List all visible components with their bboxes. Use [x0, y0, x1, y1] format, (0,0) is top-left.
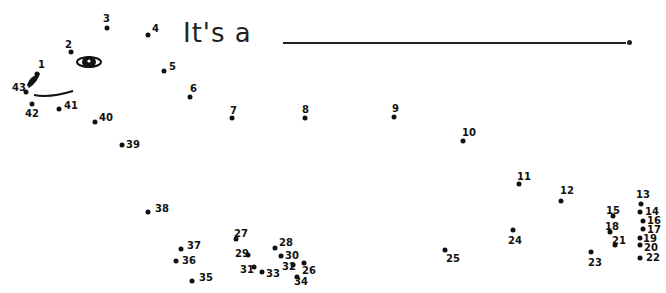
dot-label-25: 25 [446, 254, 460, 264]
dot-label-38: 38 [155, 204, 169, 214]
dot-label-40: 40 [99, 113, 113, 123]
dot-label-29: 29 [235, 249, 249, 259]
dot-4 [146, 33, 151, 38]
dot-38 [146, 210, 151, 215]
dot-label-7: 7 [230, 106, 237, 116]
dot-7 [230, 116, 235, 121]
dot-9 [392, 115, 397, 120]
dot-label-3: 3 [103, 14, 110, 24]
dot-label-8: 8 [302, 105, 309, 115]
dot-label-22: 22 [646, 253, 660, 263]
dot-label-24: 24 [508, 236, 522, 246]
dot-13 [639, 202, 644, 207]
dot-28 [273, 246, 278, 251]
dot-36 [174, 259, 179, 264]
face-drawing [0, 0, 666, 293]
dot-12 [559, 199, 564, 204]
dot-42 [30, 102, 35, 107]
dot-17 [641, 227, 646, 232]
dot-6 [188, 95, 193, 100]
dot-label-10: 10 [462, 128, 476, 138]
connect-the-dots-worksheet: It's a 123456789101112131415161718192021… [0, 0, 666, 293]
dot-label-36: 36 [182, 256, 196, 266]
dot-label-37: 37 [187, 241, 201, 251]
dot-label-5: 5 [169, 62, 176, 72]
dot-14 [638, 210, 643, 215]
dot-label-39: 39 [126, 140, 140, 150]
dot-25 [443, 248, 448, 253]
dot-label-35: 35 [199, 273, 213, 283]
dot-30 [279, 254, 284, 259]
dot-label-43: 43 [12, 83, 26, 93]
dot-label-13: 13 [636, 190, 650, 200]
dot-19 [638, 236, 643, 241]
dot-label-26: 26 [302, 266, 316, 276]
dot-label-1: 1 [38, 60, 45, 70]
mouth-curve [34, 91, 73, 96]
dot-label-21: 21 [612, 236, 626, 246]
dot-label-32: 32 [282, 262, 296, 272]
dot-label-34: 34 [294, 277, 308, 287]
dot-20 [638, 243, 643, 248]
dot-label-31: 31 [240, 265, 254, 275]
eye-icon [77, 56, 101, 68]
dot-23 [589, 250, 594, 255]
dot-label-4: 4 [152, 24, 159, 34]
dot-label-33: 33 [266, 269, 280, 279]
dot-label-28: 28 [279, 238, 293, 248]
dot-22 [638, 256, 643, 261]
dot-41 [57, 107, 62, 112]
dot-label-15: 15 [606, 206, 620, 216]
dot-label-2: 2 [65, 40, 72, 50]
dot-8 [303, 116, 308, 121]
dot-40 [93, 120, 98, 125]
dot-35 [190, 279, 195, 284]
dot-label-18: 18 [605, 222, 619, 232]
dot-2 [69, 50, 74, 55]
dot-label-27: 27 [234, 229, 248, 239]
dot-label-6: 6 [190, 84, 197, 94]
dot-5 [162, 69, 167, 74]
dot-16 [641, 219, 646, 224]
dot-label-12: 12 [560, 186, 574, 196]
dot-label-9: 9 [392, 104, 399, 114]
dot-label-23: 23 [588, 258, 602, 268]
dot-label-11: 11 [517, 172, 531, 182]
dot-33 [260, 270, 265, 275]
dot-3 [105, 26, 110, 31]
dot-39 [120, 143, 125, 148]
dot-label-30: 30 [285, 251, 299, 261]
dot-11 [517, 182, 522, 187]
dot-37 [179, 247, 184, 252]
dot-1 [35, 72, 40, 77]
dot-label-41: 41 [64, 101, 78, 111]
dot-10 [461, 139, 466, 144]
dot-label-42: 42 [25, 109, 39, 119]
dot-24 [511, 228, 516, 233]
